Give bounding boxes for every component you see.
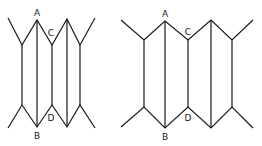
left-label-b: B: [34, 131, 40, 141]
right-label-d: D: [185, 113, 192, 123]
left-label-d: D: [48, 113, 55, 123]
right-label-a: A: [162, 9, 169, 19]
right-figure: A C D B: [121, 9, 253, 142]
right-label-b: B: [162, 132, 168, 142]
left-figure: A C D B: [8, 8, 95, 141]
right-label-c: C: [185, 27, 191, 37]
left-label-a: A: [34, 8, 41, 18]
diagram-canvas: A C D B A C D B: [0, 0, 262, 146]
left-label-c: C: [48, 28, 54, 38]
